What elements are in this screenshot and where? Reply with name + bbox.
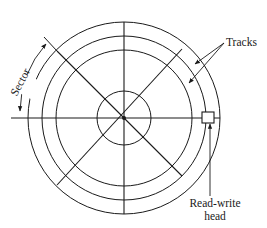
head-label-line2: head [204,210,226,222]
tracks-label: Tracks [226,36,257,48]
head-label-line1: Read-write [189,197,240,209]
tracks-arrow-1 [195,43,224,64]
center-spindle [122,116,126,120]
tracks-arrow-2 [189,43,224,83]
disk-diagram: Sector Tracks Read-write head [0,0,267,228]
read-write-head-icon [202,112,214,123]
